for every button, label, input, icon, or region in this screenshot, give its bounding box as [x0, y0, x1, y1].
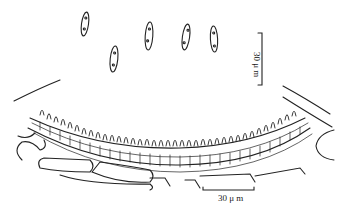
horizontal-scale-bar: [203, 187, 254, 190]
vertical-scale-label: 30 μ m: [252, 52, 262, 77]
illustration: [0, 0, 343, 210]
conidium: [144, 22, 154, 50]
conidiophore-layer: [28, 110, 312, 172]
conidium: [210, 26, 219, 52]
basal-cells: [39, 158, 305, 190]
horizontal-scale-label: 30 μ m: [218, 193, 243, 203]
conidium: [80, 12, 90, 37]
conidium: [181, 24, 192, 51]
conidia-group: [80, 12, 218, 73]
conidium: [109, 46, 119, 73]
